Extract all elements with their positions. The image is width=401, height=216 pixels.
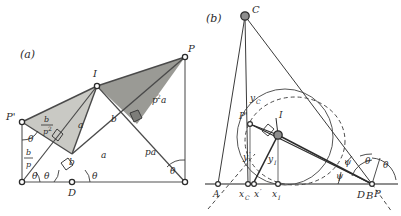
axis-base: x — [239, 189, 244, 199]
segment-label-b-upper: b — [111, 114, 117, 124]
line-C-to-D — [245, 16, 372, 184]
angle-label-theta-at-P: θ — [170, 166, 176, 176]
angle-tick-at-D — [372, 158, 380, 184]
axis-subscript: I — [277, 194, 281, 201]
point-marker-C — [241, 12, 249, 20]
point-marker-xI — [276, 182, 281, 187]
angle-label-theta-inner: θ — [365, 156, 371, 166]
segment-label-b-lower: b — [69, 157, 75, 167]
figure-container: (a) P' I P D b p 2 b p a b b a p 2 a — [0, 0, 401, 216]
height-base: y — [242, 152, 249, 162]
height-base: y — [249, 93, 256, 103]
axis-label-D: D — [356, 189, 365, 200]
height-label-y-I: y I — [267, 154, 277, 166]
fraction-numerator: b — [44, 115, 49, 124]
segment-label-b-over-p: b p — [24, 148, 33, 169]
point-marker-A — [216, 182, 221, 187]
point-marker-I — [94, 83, 99, 88]
axis-label-xI: x I — [272, 189, 281, 201]
axis-label-x-prime: x ′ — [254, 188, 262, 199]
point-label-D: D — [67, 187, 76, 198]
point-marker-x-prime — [252, 182, 257, 187]
point-marker-left-foot — [19, 179, 24, 184]
segment-label-a-upper: a — [78, 120, 83, 130]
panel-a: (a) P' I P D b p 2 b p a b b a p 2 a — [5, 43, 195, 198]
point-label-P-prime-b: P' — [238, 111, 248, 121]
axis-label-A: A — [212, 189, 220, 199]
power-tail: a — [161, 95, 166, 105]
axis-label-B: B — [365, 190, 373, 201]
angle-label-theta-at-left-foot: θ — [32, 171, 38, 181]
angle-arc-D-right — [85, 170, 90, 182]
axis-prime-mark: ′ — [260, 188, 262, 196]
angle-label-psi-lower: ψ — [336, 171, 344, 181]
angle-label-psi-upper: ψ — [344, 157, 352, 167]
segment-label-a-lower: a — [101, 150, 106, 160]
axis-base: x — [254, 189, 259, 199]
point-label-I-b: I — [278, 110, 283, 120]
axis-label-xC: x C — [239, 189, 250, 201]
point-marker-xC — [246, 182, 251, 187]
point-label-P: P — [187, 43, 195, 54]
segment-label-pa: pa — [145, 147, 156, 157]
height-subscript: I — [273, 159, 277, 166]
axis-base: x — [272, 189, 277, 199]
solid-circle — [237, 89, 333, 185]
angle-label-theta-at-P-prime: θ — [28, 134, 34, 144]
point-marker-right-foot — [182, 179, 187, 184]
point-marker-P — [182, 54, 187, 59]
line-C-to-A — [218, 16, 245, 184]
fraction-denominator-exponent: 2 — [48, 125, 52, 132]
angle-arc-D-left — [54, 170, 59, 182]
panel-b: (b) C P' I y C y ′ y I A x C x ′ x I — [205, 4, 398, 212]
axis-label-P-b: P — [373, 188, 381, 199]
point-marker-I-b — [274, 131, 282, 139]
angle-label-theta-at-D-right: θ — [92, 171, 98, 181]
geometry-figure: (a) P' I P D b p 2 b p a b b a p 2 a — [0, 0, 401, 216]
fraction-numerator: b — [26, 148, 31, 157]
point-label-I: I — [92, 68, 98, 79]
axis-subscript: C — [245, 194, 250, 201]
segment-label-p-squared-a: p 2 a — [152, 93, 166, 105]
point-marker-D-b — [370, 182, 375, 187]
panel-a-caption: (a) — [20, 48, 35, 61]
point-marker-P-prime-b — [248, 122, 253, 127]
height-prime-mark: ′ — [249, 151, 251, 159]
point-marker-P-prime — [19, 119, 24, 124]
panel-b-caption: (b) — [206, 12, 222, 25]
angle-label-theta-outer: θ — [383, 160, 389, 170]
height-base: y — [267, 154, 274, 164]
fraction-denominator: p — [26, 160, 31, 169]
point-label-C: C — [252, 4, 260, 15]
height-subscript: C — [256, 98, 261, 105]
point-label-P-prime: P' — [5, 111, 15, 122]
angle-label-theta-at-D-left: θ — [44, 171, 50, 181]
point-marker-D — [69, 179, 74, 184]
